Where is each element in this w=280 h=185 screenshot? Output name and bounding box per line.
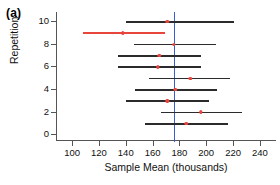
x-axis-tick-label: 220 [225,147,241,158]
y-axis-tick-label: 4 [44,83,49,94]
y-axis-tick-label: 2 [44,106,49,117]
confidence-interval-row [56,21,276,22]
x-axis-tick [72,141,73,146]
plot-area [56,12,276,140]
x-axis-tick [260,141,261,146]
y-axis-tick-label: 0 [44,128,49,139]
y-axis-tick-label: 8 [44,38,49,49]
interval-bar [126,21,235,23]
x-axis-tick-label: 100 [64,147,80,158]
sample-mean-point [199,110,202,113]
confidence-interval-row [56,123,276,124]
sample-mean-point [188,77,191,80]
y-axis-title: Repetition [8,17,20,64]
confidence-interval-row [56,66,276,67]
x-axis-title: Sample Mean (thousands) [56,161,276,173]
confidence-interval-row [56,55,276,56]
x-axis-tick-label: 200 [198,147,214,158]
figure-panel: (a) Repetition 0246810 10012014016018020… [0,0,280,185]
x-axis-tick [126,141,127,146]
x-axis-tick-label: 180 [171,147,187,158]
confidence-interval-row [56,112,276,113]
x-axis-tick [233,141,234,146]
y-axis-tick-label: 10 [38,15,49,26]
x-axis-tick [179,141,180,146]
x-axis-tick-label: 120 [91,147,107,158]
sample-mean-point [184,122,187,125]
confidence-interval-row [56,89,276,90]
x-axis-tick [99,141,100,146]
x-axis-tick [153,141,154,146]
interval-bar [118,66,201,68]
x-axis-tick-label: 140 [118,147,134,158]
sample-mean-point [174,88,177,91]
x-axis-spine [56,140,276,141]
confidence-interval-row [56,32,276,33]
x-axis-tick-label: 240 [252,147,268,158]
sample-mean-point [166,99,169,102]
sample-mean-point [172,43,175,46]
confidence-interval-row [56,44,276,45]
x-axis-tick-label: 160 [145,147,161,158]
sample-mean-point [166,20,169,23]
sample-mean-point [156,65,159,68]
y-axis-title-container: Repetition [16,12,28,140]
sample-mean-point [121,31,124,34]
y-axis-tick-label: 6 [44,60,49,71]
x-axis-tick [206,141,207,146]
confidence-interval-row [56,100,276,101]
confidence-interval-row [56,78,276,79]
sample-mean-point [158,54,161,57]
